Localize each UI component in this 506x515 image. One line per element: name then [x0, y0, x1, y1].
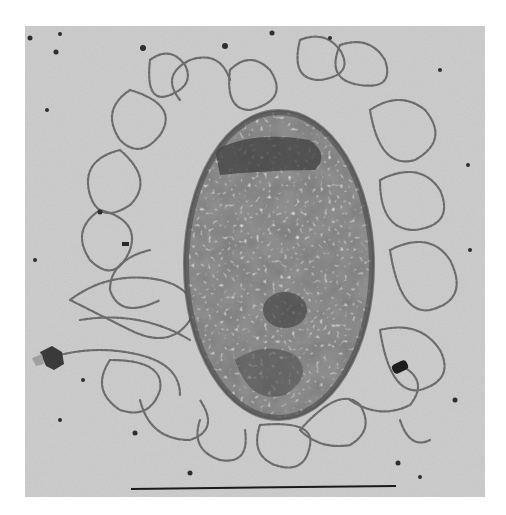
electron-micrograph [0, 0, 506, 515]
